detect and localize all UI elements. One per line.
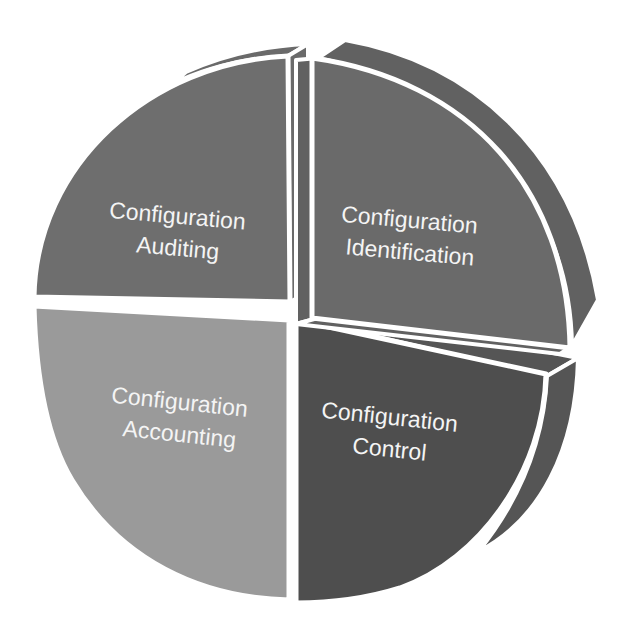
segment-accounting: Configuration Accounting [34,306,289,600]
segment-auditing-face [34,56,290,302]
segment-accounting-face [34,306,289,600]
configuration-management-pie-diagram: Configuration Auditing Configuration Acc… [0,0,636,633]
segment-identification: Configuration Identification [296,40,598,354]
segment-auditing: Configuration Auditing [34,44,308,302]
